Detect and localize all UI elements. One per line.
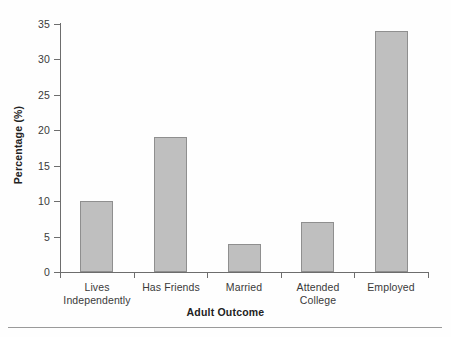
y-tick-label: 5 — [0, 231, 50, 243]
bar-has-friends — [154, 137, 187, 272]
x-tick-mark — [134, 272, 135, 278]
page-bottom-rule — [8, 327, 442, 328]
y-tick-label-wrap: 15 — [0, 160, 50, 172]
y-tick-label-wrap: 10 — [0, 195, 50, 207]
y-tick-label-wrap: 0 — [0, 266, 50, 278]
x-tick-mark — [60, 272, 61, 278]
y-axis-line — [60, 23, 61, 273]
y-tick-label-wrap: 25 — [0, 89, 50, 101]
y-tick-mark — [54, 24, 60, 25]
x-tick-mark — [354, 272, 355, 278]
bar-lives-independently — [80, 201, 113, 272]
y-tick-label-wrap: 35 — [0, 18, 50, 30]
x-category-label-employed: Employed — [346, 281, 436, 294]
y-tick-mark — [54, 166, 60, 167]
bar-married — [228, 244, 261, 272]
y-tick-label: 20 — [0, 124, 50, 136]
y-tick-label: 30 — [0, 53, 50, 65]
x-axis-line — [60, 272, 428, 273]
x-axis-title: Adult Outcome — [0, 306, 451, 318]
bar-employed — [375, 31, 408, 272]
y-tick-label-wrap: 5 — [0, 231, 50, 243]
x-tick-mark — [281, 272, 282, 278]
chart-figure: 35302520151050 LivesIndependentlyHas Fri… — [0, 0, 451, 337]
x-tick-mark — [207, 272, 208, 278]
y-tick-mark — [54, 201, 60, 202]
y-tick-label: 10 — [0, 195, 50, 207]
y-tick-label-wrap: 20 — [0, 124, 50, 136]
x-category-label-line1: Employed — [346, 281, 436, 294]
y-tick-label: 25 — [0, 89, 50, 101]
y-axis-title: Percentage (%) — [12, 75, 24, 215]
y-tick-label-wrap: 30 — [0, 53, 50, 65]
y-tick-mark — [54, 130, 60, 131]
x-tick-mark — [428, 272, 429, 278]
y-tick-label: 15 — [0, 160, 50, 172]
y-tick-mark — [54, 59, 60, 60]
y-tick-mark — [54, 95, 60, 96]
y-tick-label: 35 — [0, 18, 50, 30]
y-tick-label: 0 — [0, 266, 50, 278]
y-tick-mark — [54, 237, 60, 238]
bar-attended-college — [301, 222, 334, 272]
plot-area: 35302520151050 LivesIndependentlyHas Fri… — [0, 0, 451, 337]
